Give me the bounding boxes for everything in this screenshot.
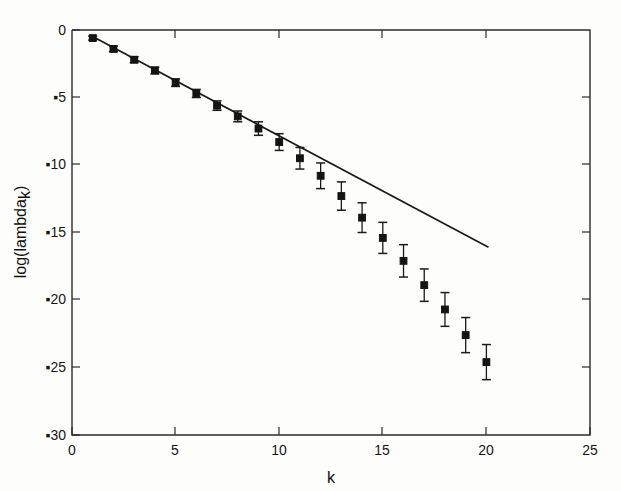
plot-frame <box>72 30 590 435</box>
data-point <box>295 147 304 169</box>
data-point <box>150 67 159 74</box>
data-point <box>316 163 325 189</box>
y-axis-title-base: log(lambda <box>12 199 29 278</box>
x-tick-label: 15 <box>374 442 390 458</box>
y-tick-label: ▪15 <box>45 224 66 240</box>
y-tick-label: 0 <box>58 22 66 38</box>
data-point <box>378 222 387 253</box>
y-tick-labels: 0 ▪5 ▪10 ▪15 ▪20 ▪25 ▪30 <box>45 22 66 443</box>
y-axis-title-close: ) <box>12 186 29 191</box>
y-tick-label: ▪5 <box>53 89 66 105</box>
data-point <box>192 89 201 97</box>
data-point <box>213 101 222 110</box>
x-tick-label: 20 <box>478 442 494 458</box>
y-tick-label: ▪20 <box>45 291 66 307</box>
x-tick-labels: 0 5 10 15 20 25 <box>68 442 598 458</box>
data-point <box>171 79 180 87</box>
data-point <box>461 318 470 353</box>
data-point <box>420 269 429 301</box>
data-point <box>399 245 408 277</box>
x-tick-label: 25 <box>582 442 598 458</box>
x-axis-ticks <box>72 30 590 435</box>
data-point <box>275 134 284 151</box>
data-point <box>88 35 97 42</box>
x-tick-label: 0 <box>68 442 76 458</box>
x-axis-title: k <box>327 469 336 486</box>
y-tick-label: ▪10 <box>45 156 66 172</box>
x-tick-label: 5 <box>171 442 179 458</box>
log-eigenvalue-scatter-plot: 0 5 10 15 20 25 0 ▪5 ▪10 ▪15 ▪20 ▪25 ▪30… <box>0 0 621 491</box>
data-point <box>109 46 118 53</box>
x-tick-label: 10 <box>271 442 287 458</box>
data-point <box>358 203 367 233</box>
y-axis-title: log(lambdak) <box>12 186 33 278</box>
data-point <box>337 182 346 210</box>
data-point <box>233 111 242 122</box>
svg-text:log(lambdak): log(lambdak) <box>12 186 33 278</box>
y-tick-label: ▪25 <box>45 359 66 375</box>
data-layer <box>88 35 491 380</box>
figure-canvas: 0 5 10 15 20 25 0 ▪5 ▪10 ▪15 ▪20 ▪25 ▪30… <box>0 0 621 491</box>
data-point <box>130 56 139 63</box>
data-point <box>482 345 491 380</box>
y-tick-label: ▪30 <box>45 427 66 443</box>
y-axis-ticks <box>72 30 590 435</box>
data-point <box>440 293 449 327</box>
